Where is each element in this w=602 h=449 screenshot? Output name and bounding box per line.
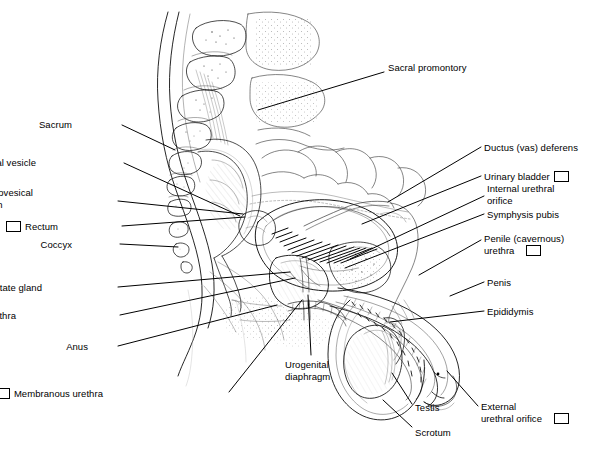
label-line-primary: Rectum bbox=[6, 221, 58, 233]
label-line-secondary: orifice bbox=[487, 195, 554, 207]
label-prostate-gland: Prostate gland bbox=[0, 282, 42, 294]
label-line-primary: Membranous urethra bbox=[0, 388, 103, 400]
label-line-primary: Prostate gland bbox=[0, 282, 42, 294]
label-ductus-vas-deferens: Ductus (vas) deferens bbox=[484, 142, 578, 154]
checkbox-membranous-urethra[interactable] bbox=[0, 388, 10, 399]
body-wall-outline bbox=[157, 12, 214, 376]
leader-line-urinary-bladder bbox=[362, 176, 481, 224]
label-line-primary: Symphysis pubis bbox=[487, 209, 559, 221]
anatomy-figure-page: Sacral promontorySacrumSeminal vesicleRe… bbox=[0, 0, 602, 449]
leader-line-sacrum bbox=[122, 125, 175, 150]
label-text-scrotum: Scrotum bbox=[415, 427, 451, 439]
label-epididymis: Epididymis bbox=[487, 306, 533, 318]
checkbox-external-urethral-orifice[interactable] bbox=[554, 413, 569, 424]
label-coccyx: Coccyx bbox=[41, 239, 72, 251]
label-anus: Anus bbox=[66, 341, 88, 353]
label-line-primary: Epididymis bbox=[487, 306, 533, 318]
label-text-penile-cavernous-urethra: Penile (cavernous) bbox=[484, 233, 564, 245]
label-text-external-urethral-orifice: External bbox=[481, 401, 516, 413]
label-line-primary: Seminal vesicle bbox=[0, 157, 36, 169]
label-symphysis-pubis: Symphysis pubis bbox=[487, 209, 559, 221]
vertebral-column bbox=[167, 21, 246, 273]
label-text-sacrum: Sacrum bbox=[39, 119, 72, 131]
label-text2-rectovesical-pouch: pouch bbox=[0, 199, 3, 211]
label-text-epididymis: Epididymis bbox=[487, 306, 533, 318]
label-line-primary: Penis bbox=[487, 277, 511, 289]
label-sacral-promontory: Sacral promontory bbox=[388, 62, 466, 74]
testis bbox=[344, 325, 402, 398]
label-line-secondary: diaphragm bbox=[285, 371, 330, 383]
label-text-rectovesical-pouch: Rectovesical bbox=[0, 187, 33, 199]
label-text2-urogenital-diaphragm: diaphragm bbox=[285, 371, 330, 383]
label-line-secondary: urethra bbox=[484, 245, 564, 257]
leader-line-penile-cavernous-urethra bbox=[419, 240, 481, 275]
label-text-urogenital-diaphragm: Urogenital bbox=[285, 359, 329, 371]
peritoneum bbox=[250, 192, 410, 220]
label-line-primary: Anus bbox=[66, 341, 88, 353]
label-text-anus: Anus bbox=[66, 341, 88, 353]
label-line-primary: Internal urethral bbox=[487, 183, 554, 195]
label-rectovesical-pouch: Rectovesicalpouch bbox=[0, 187, 33, 210]
label-line-primary: Sacral promontory bbox=[388, 62, 466, 74]
checkbox-penile-cavernous-urethra[interactable] bbox=[526, 245, 541, 256]
label-line-primary: Testis bbox=[415, 402, 440, 414]
label-text-rectum: Rectum bbox=[25, 221, 58, 233]
label-line-primary: Rectovesical bbox=[0, 187, 33, 199]
label-text-sacral-promontory: Sacral promontory bbox=[388, 62, 466, 74]
label-line-primary: Coccyx bbox=[41, 239, 72, 251]
label-text2-internal-urethral-orifice: orifice bbox=[487, 195, 513, 207]
leader-line-coccyx bbox=[120, 244, 178, 247]
label-text-ductus-vas-deferens: Ductus (vas) deferens bbox=[484, 142, 578, 154]
label-seminal-vesicle: Seminal vesicle bbox=[0, 157, 36, 169]
label-scrotum: Scrotum bbox=[415, 427, 451, 439]
label-line-primary: Sacrum bbox=[39, 119, 72, 131]
label-text2-external-urethral-orifice: urethral orifice bbox=[481, 413, 542, 425]
label-text2-penile-cavernous-urethra: urethra bbox=[484, 245, 514, 257]
label-urinary-bladder: Urinary bladder bbox=[484, 171, 569, 183]
label-penis: Penis bbox=[487, 277, 511, 289]
small-intestine-loops bbox=[246, 12, 426, 208]
label-text-internal-urethral-orifice: Internal urethral bbox=[487, 183, 554, 195]
label-external-urethral-orifice: Externalurethral orifice bbox=[481, 401, 569, 424]
label-membranous-urethra: Membranous urethra bbox=[0, 388, 103, 400]
leader-line-ductus-vas-deferens bbox=[388, 147, 481, 202]
label-urogenital-diaphragm: Urogenitaldiaphragm bbox=[285, 359, 330, 382]
checkbox-rectum[interactable] bbox=[6, 221, 21, 232]
symphysis-pubis bbox=[329, 242, 391, 293]
label-line-secondary: pouch bbox=[0, 199, 33, 211]
label-line-primary: Urinary bladder bbox=[484, 171, 569, 183]
checkbox-urinary-bladder[interactable] bbox=[554, 171, 569, 182]
label-penile-cavernous-urethra: Penile (cavernous)urethra bbox=[484, 233, 564, 256]
leader-line-penis bbox=[450, 282, 484, 296]
rectum bbox=[198, 139, 261, 258]
leader-line-epididymis bbox=[390, 311, 484, 322]
label-line-primary: Urogenital bbox=[285, 359, 330, 371]
label-text-testis: Testis bbox=[415, 402, 440, 414]
label-line-primary: Penile (cavernous) bbox=[484, 233, 564, 245]
label-text-symphysis-pubis: Symphysis pubis bbox=[487, 209, 559, 221]
label-line-primary: Ductus (vas) deferens bbox=[484, 142, 578, 154]
label-sacrum: Sacrum bbox=[39, 119, 72, 131]
leader-line-testis bbox=[392, 373, 412, 404]
faint-guides bbox=[186, 290, 246, 386]
label-line-primary: Prostatic urethra bbox=[0, 310, 16, 322]
label-prostatic-urethra: Prostatic urethra bbox=[0, 310, 16, 322]
label-rectum: Rectum bbox=[6, 221, 58, 233]
label-line-primary: External bbox=[481, 401, 569, 413]
label-internal-urethral-orifice: Internal urethralorifice bbox=[487, 183, 554, 206]
label-text-seminal-vesicle: Seminal vesicle bbox=[0, 157, 36, 169]
label-text-coccyx: Coccyx bbox=[41, 239, 72, 251]
label-text-urinary-bladder: Urinary bladder bbox=[484, 171, 550, 183]
label-line-secondary: urethral orifice bbox=[481, 413, 569, 425]
label-text-prostatic-urethra: Prostatic urethra bbox=[0, 310, 16, 322]
label-text-prostate-gland: Prostate gland bbox=[0, 282, 42, 294]
perineal-fat bbox=[222, 296, 334, 348]
label-line-primary: Scrotum bbox=[415, 427, 451, 439]
label-text-membranous-urethra: Membranous urethra bbox=[14, 388, 103, 400]
label-text-penis: Penis bbox=[487, 277, 511, 289]
label-testis: Testis bbox=[415, 402, 440, 414]
